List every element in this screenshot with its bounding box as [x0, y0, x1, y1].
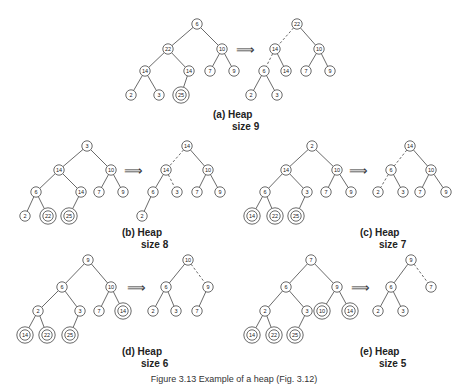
heap-node: 7	[192, 306, 202, 316]
tree-edge	[66, 264, 85, 284]
node-value: 3	[174, 308, 177, 314]
node-value: 3	[175, 189, 178, 195]
node-value: 2	[36, 308, 39, 314]
node-value: 2	[129, 92, 132, 98]
tree-edge	[113, 292, 119, 304]
tree-edge	[113, 175, 120, 188]
tree-edge	[40, 316, 44, 327]
node-value: 10	[185, 257, 191, 263]
tree-edge	[169, 264, 184, 283]
tree-edge	[101, 175, 108, 188]
tree-edge	[42, 291, 59, 308]
swap-path-edge	[381, 174, 389, 187]
node-value: 3	[305, 189, 308, 195]
tree-edge	[91, 264, 107, 283]
panel-caption-size: size 9	[232, 121, 260, 132]
tree-after: 1069237	[148, 255, 213, 316]
node-value: 3	[305, 308, 308, 314]
tree-edge	[316, 150, 333, 167]
panel-caption-label: (c) Heap	[360, 227, 399, 238]
tree-edge	[256, 316, 263, 328]
heap-node: 6	[386, 282, 396, 292]
node-value: 22	[45, 213, 51, 219]
swap-path-edge	[266, 54, 272, 67]
tree-edge	[210, 175, 217, 188]
panel-caption-size: size 6	[141, 358, 169, 369]
tree-after: 2214106147923	[246, 19, 335, 100]
tree-edge	[253, 76, 261, 91]
heap-node: 7	[192, 187, 202, 197]
heap-node: 14	[140, 66, 150, 76]
heap-node: 2	[307, 141, 317, 151]
tree-edge	[40, 174, 55, 189]
sorted-node: 22	[266, 327, 282, 343]
tree-edge	[27, 197, 34, 212]
heap-node: 6	[386, 165, 396, 175]
panel-c: 214106379142225⟹146102379(c) Heapsize 7	[244, 141, 451, 250]
heap-node: 2	[246, 90, 256, 100]
tree-edge	[199, 175, 205, 188]
node-value: 10	[108, 167, 114, 173]
swap-path-edge	[278, 28, 293, 45]
tree-edge	[256, 197, 263, 209]
node-value: 6	[284, 284, 287, 290]
swap-path-edge	[394, 150, 407, 166]
heap-node: 7	[205, 66, 215, 76]
tree-edge	[340, 174, 348, 187]
tree-edge	[328, 175, 334, 188]
node-value: 7	[324, 189, 327, 195]
tree-before: 314106147922225	[20, 141, 128, 224]
node-value: 9	[232, 68, 235, 74]
node-value: 2	[249, 92, 252, 98]
panel-caption-size: size 5	[379, 358, 407, 369]
panel-caption-label: (e) Heap	[360, 346, 399, 357]
sorted-node: 14	[115, 303, 131, 319]
heap-node: 9	[325, 66, 335, 76]
node-value: 10	[205, 167, 211, 173]
node-value: 7	[304, 68, 307, 74]
node-value: 3	[78, 308, 81, 314]
tree-edge	[277, 54, 283, 67]
node-value: 9	[86, 257, 89, 263]
heap-node: 10	[183, 255, 193, 265]
tree-edge	[289, 291, 303, 307]
heap-node: 10	[217, 44, 227, 54]
node-value: 22	[165, 46, 171, 52]
node-value: 2	[310, 143, 313, 149]
sorted-node: 22	[39, 327, 55, 343]
heap-node: 9	[229, 66, 239, 76]
tree-edge	[267, 197, 272, 209]
tree-edge	[393, 292, 400, 307]
tree-edge	[184, 76, 188, 87]
heap-node: 10	[314, 44, 324, 54]
heap-node: 3	[398, 306, 408, 316]
node-value: 14	[283, 167, 289, 173]
node-value: 6	[389, 284, 392, 290]
tree-before: 961023714142225	[17, 255, 131, 343]
heap-sort-figure: 622101414792325⟹2214106147923(a) Heapsiz…	[0, 0, 468, 385]
node-value: 7	[97, 308, 100, 314]
node-value: 22	[294, 21, 300, 27]
heap-node: 7	[94, 306, 104, 316]
tree-edge	[63, 149, 83, 166]
heap-node: 14	[182, 141, 192, 151]
heap-node: 10	[332, 165, 342, 175]
tree-edge	[422, 175, 428, 188]
node-value: 9	[121, 189, 124, 195]
tree-edge	[149, 53, 164, 68]
node-value: 14	[78, 189, 84, 195]
node-value: 25	[292, 332, 298, 338]
node-value: 14	[249, 332, 255, 338]
node-value: 7	[418, 189, 421, 195]
node-value: 14	[56, 167, 62, 173]
node-value: 6	[34, 189, 37, 195]
sorted-node: 22	[40, 208, 56, 224]
node-value: 3	[157, 92, 160, 98]
heap-node: 9	[83, 255, 93, 265]
heap-node: 7	[94, 187, 104, 197]
heap-node: 3	[302, 306, 312, 316]
node-value: 14	[22, 332, 28, 338]
node-value: 7	[97, 189, 100, 195]
node-value: 10	[428, 167, 434, 173]
tree-edge	[267, 316, 271, 327]
